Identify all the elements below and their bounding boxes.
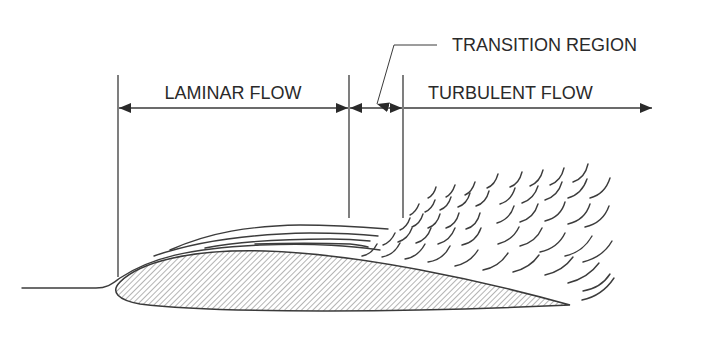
extension-lines <box>118 75 403 277</box>
boundary-layer-diagram: LAMINAR FLOW TURBULENT FLOW TRANSITION R… <box>0 0 704 349</box>
laminar-flow-label: LAMINAR FLOW <box>164 83 301 103</box>
turbulent-flow-label: TURBULENT FLOW <box>428 83 593 103</box>
transition-region-label: TRANSITION REGION <box>452 35 637 55</box>
